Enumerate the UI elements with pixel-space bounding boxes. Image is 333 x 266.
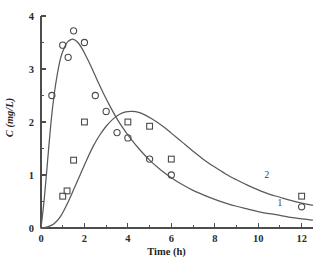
data-point-square — [82, 119, 88, 125]
y-axis-title: C (mg/L) — [4, 78, 15, 158]
plot-area: 02468101201234 12 — [0, 0, 333, 266]
curve-label-1: 1 — [278, 198, 283, 208]
x-tick-label: 2 — [82, 233, 87, 244]
x-axis-title: Time (h) — [0, 246, 333, 257]
x-tick-label: 12 — [296, 233, 307, 244]
y-tick-label: 1 — [29, 170, 34, 181]
curve-labels: 12 — [265, 170, 283, 208]
data-point-square — [299, 193, 305, 199]
pharmacokinetic-concentration-chart: 02468101201234 12 Time (h) C (mg/L) — [0, 0, 333, 266]
data-point-circle — [299, 204, 305, 210]
data-point-circle — [92, 92, 98, 98]
data-point-circle — [65, 54, 71, 60]
x-tick-label: 10 — [253, 233, 264, 244]
data-point-circle — [103, 108, 109, 114]
y-tick-label: 3 — [29, 64, 34, 75]
y-tick-label: 0 — [29, 223, 34, 234]
data-point-square — [125, 119, 131, 125]
y-tick-label: 2 — [29, 117, 34, 128]
y-tick-label: 4 — [29, 11, 35, 22]
x-tick-label: 6 — [169, 233, 174, 244]
fit-curve-2 — [41, 111, 313, 228]
data-point-circle — [147, 156, 153, 162]
data-point-square — [71, 157, 77, 163]
data-point-square — [147, 123, 153, 129]
x-tick-label: 0 — [38, 233, 43, 244]
fit-curve-1 — [41, 39, 313, 228]
data-point-circle — [81, 39, 87, 45]
tick-labels: 02468101201234 — [29, 11, 307, 244]
fitted-curves — [41, 39, 313, 228]
data-markers — [49, 28, 305, 210]
curve-label-2: 2 — [265, 170, 270, 180]
x-tick-label: 4 — [125, 233, 131, 244]
data-point-circle — [70, 28, 76, 34]
data-point-circle — [114, 130, 120, 136]
x-tick-label: 8 — [212, 233, 217, 244]
data-point-square — [168, 156, 174, 162]
